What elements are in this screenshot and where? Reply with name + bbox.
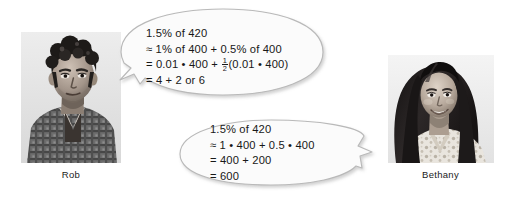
caption-bethany: Bethany xyxy=(383,169,498,180)
caption-rob: Rob xyxy=(12,169,130,180)
bubble-rob-line-2: ≈ 1% of 400 + 0.5% of 400 xyxy=(146,42,288,58)
bubble-bethany-line-3: = 400 + 200 xyxy=(210,153,315,169)
bubble-rob-line-3: = 0.01 • 400 + 12(0.01 • 400) xyxy=(146,57,288,73)
bubble-bethany-line-1: 1.5% of 420 xyxy=(210,122,315,138)
bubble-rob-line-3-prefix: = 0.01 • 400 + xyxy=(146,59,221,71)
bubble-bethany-line-2: ≈ 1 • 400 + 0.5 • 400 xyxy=(210,138,315,154)
bubble-bethany-line-4: = 600 xyxy=(210,169,315,185)
fraction-numerator: 1 xyxy=(222,57,228,65)
fraction-denominator: 2 xyxy=(222,64,228,73)
person-card-rob: Rob xyxy=(12,32,130,180)
person-card-bethany: Bethany xyxy=(383,55,498,180)
one-half-fraction: 12 xyxy=(222,57,228,73)
photo-of-rob xyxy=(21,32,121,163)
photo-of-bethany xyxy=(388,55,494,163)
bubble-rob-line-4: = 4 + 2 or 6 xyxy=(146,73,288,89)
percent-estimation-scene: Rob xyxy=(0,0,506,200)
bubble-rob-equations: 1.5% of 420 ≈ 1% of 400 + 0.5% of 400 = … xyxy=(146,26,288,88)
bubble-rob-line-3-suffix: (0.01 • 400) xyxy=(228,59,288,71)
speech-bubble-bethany: 1.5% of 420 ≈ 1 • 400 + 0.5 • 400 = 400 … xyxy=(176,108,376,188)
speech-bubble-rob: 1.5% of 420 ≈ 1% of 400 + 0.5% of 400 = … xyxy=(118,6,328,106)
bubble-bethany-equations: 1.5% of 420 ≈ 1 • 400 + 0.5 • 400 = 400 … xyxy=(210,122,315,184)
bubble-rob-line-1: 1.5% of 420 xyxy=(146,26,288,42)
